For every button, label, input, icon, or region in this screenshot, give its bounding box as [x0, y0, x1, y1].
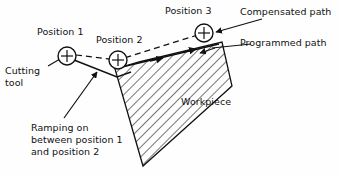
position-2-marker	[109, 51, 127, 69]
label-position-1: Position 1	[37, 26, 84, 38]
label-cutting-tool-line-2: tool	[5, 77, 23, 89]
label-ramping-line-3: and position 2	[31, 146, 99, 158]
label-position-2: Position 2	[96, 34, 143, 46]
label-programmed-path: Programmed path	[240, 37, 327, 49]
label-workpiece: Workpiece	[181, 96, 231, 108]
label-cutting-tool-line-1: Cutting	[5, 65, 40, 77]
ramping-leader	[64, 72, 97, 118]
diagram-canvas: Position 1 Position 2 Position 3 Compens…	[0, 0, 338, 176]
label-ramping-line-1: Ramping on	[31, 122, 89, 134]
position-1-marker	[58, 47, 76, 65]
compensated-path-leader	[216, 19, 262, 32]
label-ramping-line-2: between position 1	[31, 134, 123, 146]
position-3-marker	[195, 24, 213, 42]
label-compensated-path: Compensated path	[240, 6, 331, 18]
label-position-3: Position 3	[165, 5, 212, 17]
